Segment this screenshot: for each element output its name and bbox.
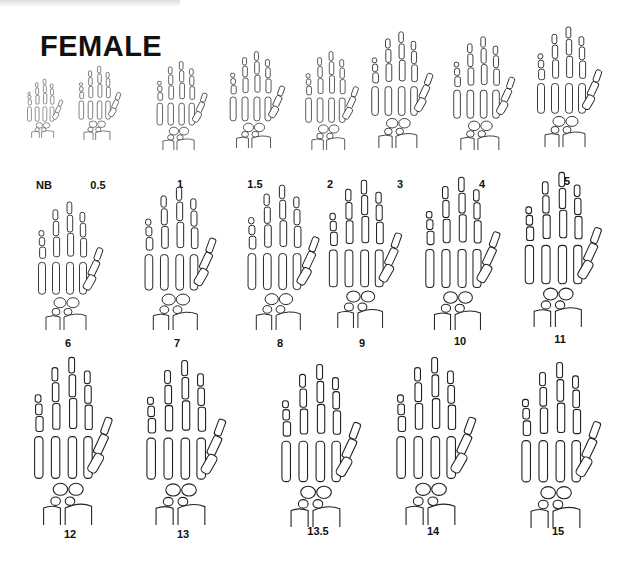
cropped-caption-remnant: [0, 0, 180, 6]
hand-skeleton-icon: [263, 362, 373, 527]
hand-skeleton-icon: [312, 178, 413, 328]
hand-skeleton-icon: [19, 78, 69, 138]
age-label: NB: [36, 179, 52, 191]
hand-skeleton-icon: [439, 35, 525, 150]
figure-title: FEMALE: [40, 30, 162, 63]
age-label: 15: [552, 525, 564, 537]
age-label: 14: [427, 525, 439, 537]
hand-skeleton-icon: [522, 25, 612, 147]
age-label: 10: [454, 335, 466, 347]
hand-skeleton-icon: [503, 360, 613, 528]
hand-skeleton-icon: [408, 175, 512, 330]
age-label: 9: [359, 337, 365, 349]
age-label: 13: [177, 528, 189, 540]
age-label: 0.5: [90, 179, 105, 191]
hand-skeleton-icon: [293, 50, 367, 150]
hand-skeleton-icon: [507, 170, 613, 327]
hand-skeleton-icon: [128, 185, 227, 330]
hand-skeleton-icon: [69, 65, 128, 140]
age-label: 7: [174, 337, 180, 349]
age-label: 8: [277, 337, 283, 349]
hand-skeleton-icon: [378, 355, 488, 525]
hand-skeleton-icon: [128, 358, 238, 525]
hand-skeleton-icon: [357, 30, 443, 148]
hand-skeleton-icon: [145, 60, 215, 150]
hand-skeleton-icon: [23, 200, 113, 330]
age-label: 13.5: [307, 525, 328, 537]
hand-skeleton-icon: [217, 50, 294, 148]
hand-skeleton-icon: [16, 355, 124, 525]
age-label: 6: [65, 337, 71, 349]
age-label: 11: [554, 333, 566, 345]
age-label: 12: [64, 528, 76, 540]
